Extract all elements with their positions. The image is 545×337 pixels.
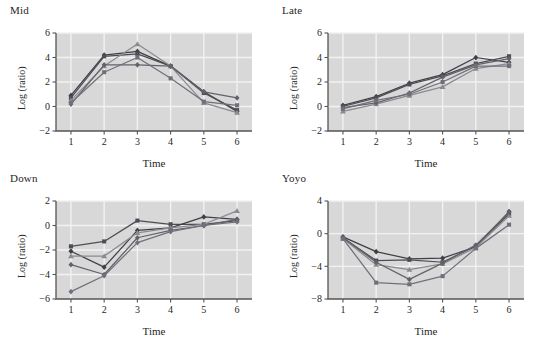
plot-svg: −20246123456 <box>0 0 272 168</box>
x-tick-label: 6 <box>235 304 240 315</box>
data-point-marker <box>407 282 411 286</box>
data-point-marker <box>102 70 106 74</box>
y-tick-label: 2 <box>317 76 322 87</box>
x-tick-label: 5 <box>201 136 206 147</box>
data-point-marker <box>441 274 445 278</box>
x-tick-label: 6 <box>507 136 512 147</box>
data-point-marker <box>169 76 173 80</box>
x-tick-label: 6 <box>235 136 240 147</box>
x-tick-label: 2 <box>102 136 107 147</box>
data-point-marker <box>202 100 206 104</box>
y-tick-label: −4 <box>311 261 322 272</box>
chart-panel-mid: MidLog (ratio)Time−20246123456 <box>0 0 272 168</box>
chart-panel-late: LateLog (ratio)Time−20246123456 <box>272 0 544 168</box>
data-point-marker <box>407 82 411 86</box>
x-tick-label: 1 <box>340 136 345 147</box>
data-point-marker <box>102 239 106 243</box>
data-point-marker <box>507 223 511 227</box>
plot-svg: −8−404123456 <box>272 168 544 336</box>
data-point-marker <box>441 80 445 84</box>
data-point-marker <box>341 237 345 241</box>
plot-area-container: −20246123456 <box>0 0 272 168</box>
data-point-marker <box>374 281 378 285</box>
data-point-marker <box>374 98 378 102</box>
x-tick-label: 3 <box>135 304 140 315</box>
data-point-marker <box>69 101 73 105</box>
y-tick-label: 4 <box>317 195 322 206</box>
y-tick-label: 6 <box>45 27 50 38</box>
chart-panel-yoyo: YoyoLog (ratio)Time−8−404123456 <box>272 168 544 336</box>
figure-panel-grid: MidLog (ratio)Time−20246123456LateLog (r… <box>0 0 545 337</box>
y-tick-label: 0 <box>45 101 50 112</box>
x-tick-label: 5 <box>473 304 478 315</box>
y-tick-label: 2 <box>45 76 50 87</box>
y-tick-label: 0 <box>317 228 322 239</box>
y-tick-label: 4 <box>317 52 322 63</box>
y-tick-label: −2 <box>311 125 322 136</box>
plot-area-container: −20246123456 <box>272 0 544 168</box>
y-tick-label: −6 <box>39 293 50 304</box>
x-tick-label: 1 <box>68 304 73 315</box>
x-tick-label: 4 <box>440 136 445 147</box>
x-tick-label: 3 <box>135 136 140 147</box>
data-point-marker <box>474 64 478 68</box>
data-point-marker <box>69 244 73 248</box>
data-point-marker <box>474 246 478 250</box>
x-tick-label: 2 <box>374 136 379 147</box>
plot-area-container: −6−4−202123456 <box>0 168 272 336</box>
y-tick-label: −4 <box>39 269 50 280</box>
chart-panel-down: DownLog (ratio)Time−6−4−202123456 <box>0 168 272 336</box>
data-point-marker <box>102 54 106 58</box>
x-tick-label: 3 <box>407 304 412 315</box>
y-tick-label: 4 <box>45 52 50 63</box>
y-tick-label: −2 <box>39 244 50 255</box>
x-tick-label: 5 <box>201 304 206 315</box>
x-tick-label: 2 <box>102 304 107 315</box>
plot-svg: −6−4−202123456 <box>0 168 272 336</box>
data-point-marker <box>135 219 139 223</box>
data-point-marker <box>341 107 345 111</box>
y-tick-label: 6 <box>317 27 322 38</box>
x-tick-label: 2 <box>374 304 379 315</box>
x-tick-label: 1 <box>340 304 345 315</box>
x-tick-label: 4 <box>168 304 173 315</box>
y-tick-label: 0 <box>45 220 50 231</box>
x-tick-label: 3 <box>407 136 412 147</box>
x-tick-label: 6 <box>507 304 512 315</box>
data-point-marker <box>407 92 411 96</box>
plot-area-container: −8−404123456 <box>272 168 544 336</box>
data-point-marker <box>507 64 511 68</box>
x-tick-label: 5 <box>473 136 478 147</box>
y-tick-label: 0 <box>317 101 322 112</box>
y-tick-label: −2 <box>39 125 50 136</box>
data-point-marker <box>407 258 411 262</box>
data-point-marker <box>135 52 139 56</box>
plot-svg: −20246123456 <box>272 0 544 168</box>
x-tick-label: 4 <box>168 136 173 147</box>
data-point-marker <box>235 103 239 107</box>
data-point-marker <box>135 55 139 59</box>
x-tick-label: 1 <box>68 136 73 147</box>
y-tick-label: −8 <box>311 293 322 304</box>
x-tick-label: 4 <box>440 304 445 315</box>
y-tick-label: 2 <box>45 195 50 206</box>
